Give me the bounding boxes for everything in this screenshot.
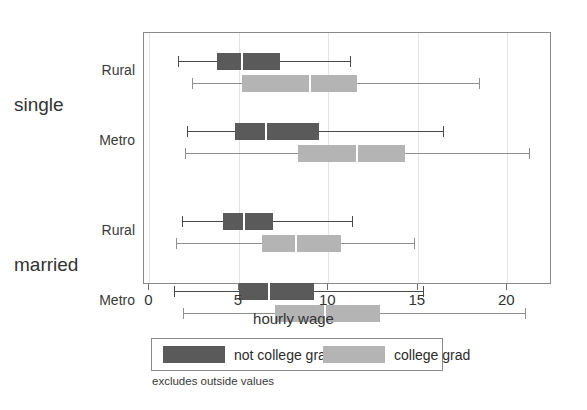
median-single-metro-not-college-grad	[265, 123, 267, 140]
whisker-cap-low-married-metro-not-college-grad	[174, 286, 175, 297]
box-married-rural-not-college-grad	[223, 213, 273, 230]
box-married-rural-college-grad	[262, 235, 341, 252]
median-single-metro-college-grad	[356, 145, 358, 162]
whisker-cap-low-married-rural-not-college-grad	[182, 216, 183, 227]
whisker-cap-high-single-rural-college-grad	[479, 78, 480, 89]
legend-entry-college-grad: college grad	[323, 339, 470, 370]
whisker-cap-high-single-rural-not-college-grad	[350, 56, 351, 67]
x-tick-label-10: 10	[319, 291, 336, 308]
footnote-text: excludes outside values	[152, 375, 274, 387]
median-married-rural-not-college-grad	[243, 213, 245, 230]
median-married-metro-not-college-grad	[268, 283, 270, 300]
gridline-20	[507, 33, 508, 283]
category-label-married-rural: Rural	[65, 222, 135, 238]
x-tick-5	[238, 284, 239, 290]
whisker-cap-low-single-rural-college-grad	[192, 78, 193, 89]
category-label-single-metro: Metro	[65, 132, 135, 148]
x-tick-label-15: 15	[408, 291, 425, 308]
legend-swatch-college-grad	[323, 346, 385, 363]
group-label-married: married	[14, 254, 78, 276]
group-label-single: single	[14, 94, 64, 116]
median-married-rural-college-grad	[295, 235, 297, 252]
boxplot-figure: single married Rural Metro Rural Metro 0…	[0, 0, 587, 410]
whisker-cap-high-single-metro-college-grad	[529, 148, 530, 159]
legend-entry-not-college-grad: not college grad	[163, 339, 334, 370]
category-label-married-metro: Metro	[65, 292, 135, 308]
whisker-cap-low-married-rural-college-grad	[176, 238, 177, 249]
x-axis: 05101520	[143, 284, 551, 285]
legend-label-not-college-grad: not college grad	[234, 347, 334, 363]
box-single-rural-college-grad	[242, 75, 357, 92]
whisker-cap-high-married-rural-college-grad	[414, 238, 415, 249]
legend: not college grad college grad	[151, 338, 443, 371]
median-single-rural-not-college-grad	[241, 53, 243, 70]
x-tick-0	[148, 284, 149, 290]
whisker-cap-high-single-metro-not-college-grad	[443, 126, 444, 137]
gridline-5	[239, 33, 240, 283]
x-tick-20	[506, 284, 507, 290]
x-tick-15	[417, 284, 418, 290]
box-married-metro-not-college-grad	[239, 283, 314, 300]
whisker-cap-low-single-metro-not-college-grad	[187, 126, 188, 137]
x-axis-title: hourly wage	[0, 310, 587, 327]
box-single-metro-not-college-grad	[235, 123, 319, 140]
box-single-rural-not-college-grad	[217, 53, 280, 70]
gridline-15	[418, 33, 419, 283]
whisker-cap-low-single-metro-college-grad	[185, 148, 186, 159]
x-tick-label-0: 0	[144, 291, 152, 308]
whisker-cap-low-single-rural-not-college-grad	[178, 56, 179, 67]
category-label-single-rural: Rural	[65, 62, 135, 78]
box-single-metro-college-grad	[298, 145, 405, 162]
plot-area	[143, 32, 551, 284]
gridline-0	[149, 33, 150, 283]
whisker-cap-high-married-rural-not-college-grad	[352, 216, 353, 227]
legend-swatch-not-college-grad	[163, 346, 225, 363]
legend-label-college-grad: college grad	[394, 347, 470, 363]
median-single-rural-college-grad	[309, 75, 311, 92]
x-tick-label-5: 5	[234, 291, 242, 308]
x-tick-10	[327, 284, 328, 290]
x-tick-label-20: 20	[498, 291, 515, 308]
